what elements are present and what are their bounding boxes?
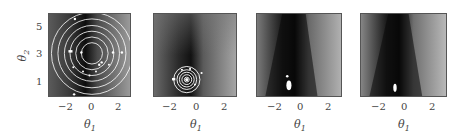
- plot-panel-1: [48, 13, 131, 97]
- x-tick: −2: [371, 102, 386, 112]
- y-tick: 1: [36, 77, 42, 87]
- x-axis-label: θ1: [84, 118, 96, 133]
- x-tick: 0: [88, 102, 94, 112]
- plot-panel-2: [153, 13, 237, 97]
- x-tick: 2: [221, 102, 227, 112]
- x-tick: −2: [58, 102, 73, 112]
- plot-panel-3: [256, 13, 342, 97]
- x-axis-label: θ1: [190, 118, 202, 133]
- heatmap-4: [361, 14, 446, 96]
- x-tick: 2: [325, 102, 331, 112]
- x-tick: −2: [162, 102, 177, 112]
- heatmap-3: [257, 14, 341, 96]
- x-tick: 2: [115, 102, 121, 112]
- y-axis-label: θ2: [16, 50, 31, 62]
- plot-panel-4: [360, 13, 447, 97]
- x-tick: 0: [297, 102, 303, 112]
- x-axis-label: θ1: [294, 118, 306, 133]
- y-tick: 3: [36, 49, 42, 59]
- x-axis-label: θ1: [398, 118, 410, 133]
- y-tick: 5: [36, 22, 42, 32]
- x-tick: 2: [429, 102, 435, 112]
- x-tick: 0: [193, 102, 199, 112]
- x-tick: 0: [401, 102, 407, 112]
- heatmap-1: [49, 14, 130, 96]
- heatmap-2: [154, 14, 236, 96]
- x-tick: −2: [267, 102, 282, 112]
